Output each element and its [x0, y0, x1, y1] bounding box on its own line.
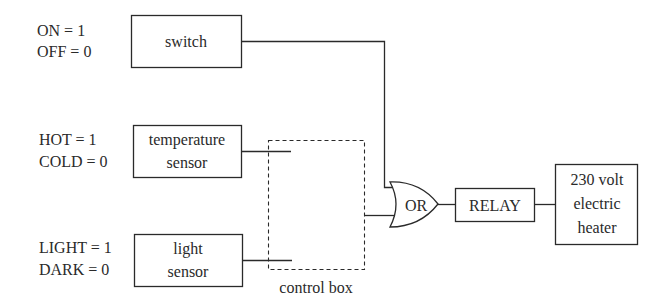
or-gate-label: OR [405, 197, 428, 214]
temperature-sensor-label-2: sensor [167, 154, 209, 171]
switch-on-label: ON = 1 [37, 22, 85, 39]
control-box-label: control box [279, 279, 352, 296]
light-sensor-label-1: light [173, 240, 203, 258]
temperature-sensor-label-1: temperature [149, 131, 225, 149]
light-light-label: LIGHT = 1 [39, 239, 112, 256]
light-legend: LIGHT = 1 DARK = 0 [39, 239, 112, 278]
temperature-cold-label: COLD = 0 [39, 153, 108, 170]
relay-label: RELAY [469, 197, 521, 214]
temperature-sensor-block: temperature sensor [134, 126, 242, 178]
light-sensor-block: light sensor [135, 235, 243, 287]
light-sensor-label-2: sensor [168, 263, 210, 280]
heater-label-3: heater [577, 219, 617, 236]
temperature-hot-label: HOT = 1 [39, 131, 97, 148]
heater-label-1: 230 volt [571, 171, 624, 188]
temperature-legend: HOT = 1 COLD = 0 [39, 131, 108, 170]
heater-label-2: electric [573, 195, 620, 212]
switch-wire [242, 42, 397, 188]
switch-block-label: switch [165, 33, 207, 50]
wires [242, 42, 556, 261]
switch-block: switch [132, 16, 242, 68]
or-gate: OR [390, 182, 438, 227]
switch-legend: ON = 1 OFF = 0 [37, 22, 91, 60]
circuit-diagram: ON = 1 OFF = 0 HOT = 1 COLD = 0 LIGHT = … [0, 0, 665, 304]
light-dark-label: DARK = 0 [39, 261, 109, 278]
heater-block: 230 volt electric heater [556, 165, 638, 245]
relay-block: RELAY [456, 189, 535, 222]
control-box: control box [269, 141, 365, 297]
switch-off-label: OFF = 0 [37, 43, 91, 60]
